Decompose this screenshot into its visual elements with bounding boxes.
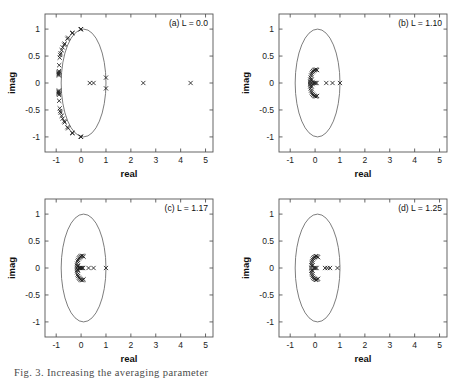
plot-b: -1012345-1-0.500.51realimag(b) L = 1.10 bbox=[234, 0, 468, 185]
x-tick-label: 4 bbox=[412, 155, 417, 165]
y-tick-label: 0.5 bbox=[262, 51, 274, 61]
y-axis-label: imag bbox=[240, 257, 251, 279]
data-markers bbox=[75, 254, 108, 282]
x-axis-label: real bbox=[121, 168, 138, 179]
x-axis-label: real bbox=[355, 353, 372, 364]
x-tick-label: 0 bbox=[313, 155, 318, 165]
x-tick-label: 0 bbox=[313, 340, 318, 350]
y-tick-label: -0.5 bbox=[25, 105, 40, 115]
y-tick-label: -0.5 bbox=[25, 290, 40, 300]
panel-label: (b) L = 1.10 bbox=[398, 18, 442, 28]
y-axis-label: imag bbox=[240, 72, 251, 94]
panel-label: (c) L = 1.17 bbox=[165, 203, 209, 213]
x-tick-label: -1 bbox=[52, 340, 60, 350]
x-tick-label: 3 bbox=[153, 340, 158, 350]
x-tick-label: 1 bbox=[104, 155, 109, 165]
plot-frame bbox=[279, 199, 447, 337]
y-tick-label: -1 bbox=[32, 317, 40, 327]
x-tick-label: 3 bbox=[387, 155, 392, 165]
plot-frame bbox=[45, 199, 213, 337]
y-tick-label: 0 bbox=[269, 78, 274, 88]
x-tick-label: 4 bbox=[178, 340, 183, 350]
x-tick-label: 2 bbox=[362, 340, 367, 350]
y-tick-label: -1 bbox=[266, 317, 274, 327]
plot-c: -1012345-1-0.500.51realimag(c) L = 1.17 bbox=[0, 185, 234, 370]
data-markers bbox=[57, 27, 193, 139]
eigenvalue-spectra-figure: -1012345-1-0.500.51realimag(a) L = 0.0 -… bbox=[0, 0, 468, 382]
plot-a: -1012345-1-0.500.51realimag(a) L = 0.0 bbox=[0, 0, 234, 185]
y-tick-label: 1 bbox=[269, 209, 274, 219]
panel-b: -1012345-1-0.500.51realimag(b) L = 1.10 bbox=[234, 0, 468, 185]
x-tick-label: 4 bbox=[412, 340, 417, 350]
data-point bbox=[91, 81, 95, 85]
x-tick-label: -1 bbox=[286, 340, 294, 350]
data-markers bbox=[308, 67, 342, 98]
x-tick-label: 0 bbox=[79, 155, 84, 165]
data-point bbox=[71, 131, 75, 135]
plot-frame bbox=[279, 14, 447, 152]
plot-d: -1012345-1-0.500.51realimag(d) L = 1.25 bbox=[234, 185, 468, 370]
x-axis-label: real bbox=[121, 353, 138, 364]
x-tick-label: 1 bbox=[338, 155, 343, 165]
x-tick-label: -1 bbox=[286, 155, 294, 165]
reference-ellipse bbox=[295, 214, 340, 322]
y-tick-label: 0.5 bbox=[28, 236, 40, 246]
y-tick-label: -0.5 bbox=[259, 105, 274, 115]
x-tick-label: 5 bbox=[437, 340, 442, 350]
panel-label: (d) L = 1.25 bbox=[398, 203, 442, 213]
data-point bbox=[91, 266, 95, 270]
data-point bbox=[335, 266, 339, 270]
data-markers bbox=[309, 254, 339, 282]
y-tick-label: -1 bbox=[266, 132, 274, 142]
x-tick-label: 2 bbox=[362, 155, 367, 165]
x-tick-label: 1 bbox=[104, 340, 109, 350]
figure-caption: Fig. 3. Increasing the averaging paramet… bbox=[0, 366, 468, 382]
x-tick-label: 5 bbox=[203, 340, 208, 350]
x-tick-label: 5 bbox=[437, 155, 442, 165]
data-point bbox=[141, 81, 145, 85]
panel-label: (a) L = 0.0 bbox=[169, 18, 208, 28]
y-tick-label: 0.5 bbox=[262, 236, 274, 246]
x-tick-label: 3 bbox=[387, 340, 392, 350]
y-tick-label: 0.5 bbox=[28, 51, 40, 61]
x-tick-label: 2 bbox=[128, 340, 133, 350]
x-tick-label: 5 bbox=[203, 155, 208, 165]
panel-d: -1012345-1-0.500.51realimag(d) L = 1.25 bbox=[234, 185, 468, 370]
y-axis-label: imag bbox=[6, 72, 17, 94]
data-point bbox=[58, 56, 62, 60]
data-point bbox=[57, 63, 61, 67]
data-point bbox=[324, 81, 328, 85]
x-tick-label: -1 bbox=[52, 155, 60, 165]
x-axis-label: real bbox=[355, 168, 372, 179]
y-tick-label: 0 bbox=[35, 78, 40, 88]
x-tick-label: 0 bbox=[79, 340, 84, 350]
x-tick-label: 4 bbox=[178, 155, 183, 165]
y-tick-label: 0 bbox=[35, 263, 40, 273]
data-point bbox=[328, 266, 332, 270]
panel-grid: -1012345-1-0.500.51realimag(a) L = 0.0 -… bbox=[0, 0, 468, 366]
y-tick-label: 0 bbox=[269, 263, 274, 273]
y-axis-label: imag bbox=[6, 257, 17, 279]
y-tick-label: 1 bbox=[35, 24, 40, 34]
y-tick-label: -0.5 bbox=[259, 290, 274, 300]
panel-a: -1012345-1-0.500.51realimag(a) L = 0.0 bbox=[0, 0, 234, 185]
reference-ellipse bbox=[61, 29, 106, 137]
data-point bbox=[330, 81, 334, 85]
data-point bbox=[57, 99, 61, 103]
y-tick-label: 1 bbox=[269, 24, 274, 34]
data-point bbox=[88, 81, 92, 85]
y-tick-label: 1 bbox=[35, 209, 40, 219]
reference-ellipse bbox=[295, 29, 340, 137]
figure-caption-text: Fig. 3. Increasing the averaging paramet… bbox=[14, 367, 208, 378]
data-point bbox=[86, 266, 90, 270]
data-point bbox=[189, 81, 193, 85]
y-tick-label: -1 bbox=[32, 132, 40, 142]
data-point bbox=[70, 31, 74, 35]
x-tick-label: 2 bbox=[128, 155, 133, 165]
x-tick-label: 3 bbox=[153, 155, 158, 165]
x-tick-label: 1 bbox=[338, 340, 343, 350]
panel-c: -1012345-1-0.500.51realimag(c) L = 1.17 bbox=[0, 185, 234, 370]
